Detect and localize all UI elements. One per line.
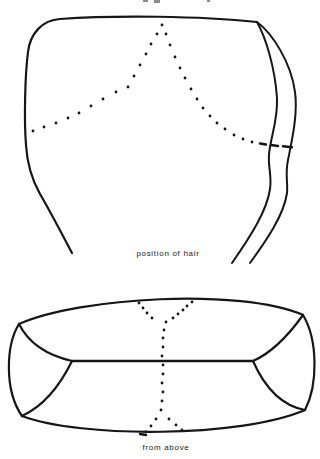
hairline-dot bbox=[145, 53, 148, 56]
hairline-dot bbox=[251, 141, 254, 144]
hairline-dot bbox=[162, 364, 165, 367]
hairline-dot bbox=[209, 115, 212, 118]
hairline-dot bbox=[161, 355, 164, 358]
hairline-dot bbox=[142, 307, 145, 310]
hairline-dot bbox=[78, 112, 81, 115]
hairline-dot bbox=[139, 64, 142, 67]
hairline-dot bbox=[182, 309, 185, 312]
hairline-dot bbox=[162, 346, 165, 349]
outline-path bbox=[232, 22, 277, 263]
hairline-dot bbox=[162, 373, 165, 376]
hairline-dot bbox=[175, 424, 178, 427]
figure-top-view bbox=[9, 299, 315, 435]
hairline-dot bbox=[133, 75, 136, 78]
hairline-dot bbox=[163, 329, 166, 332]
hairline-dot bbox=[127, 86, 130, 89]
outline-path bbox=[253, 315, 303, 361]
clipped-text-fragment bbox=[143, 0, 148, 2]
hairline-dot bbox=[161, 24, 164, 27]
outline-path bbox=[9, 324, 22, 416]
hairline-dash bbox=[260, 144, 266, 145]
hairline-dot bbox=[169, 44, 172, 47]
outline-path bbox=[22, 410, 305, 432]
hairline-dot bbox=[151, 317, 154, 320]
hairline-dot bbox=[155, 418, 158, 421]
hairline-dot bbox=[160, 409, 163, 412]
hairline-dot bbox=[186, 305, 189, 308]
clipped-text-fragment bbox=[154, 0, 160, 3]
outline-path bbox=[22, 361, 72, 416]
hairline-dot bbox=[90, 105, 93, 108]
hairline-dot bbox=[172, 317, 175, 320]
clipped-text-fragment bbox=[207, 0, 210, 2]
outline-path bbox=[250, 22, 296, 263]
page: position of hair from above bbox=[0, 0, 320, 459]
hairline-dash bbox=[283, 146, 292, 147]
hairline-dot bbox=[190, 88, 193, 91]
hairline-dot bbox=[115, 91, 118, 94]
hairline-dot bbox=[196, 98, 199, 101]
outline-path bbox=[19, 299, 303, 324]
hairline-dot bbox=[161, 382, 164, 385]
hairline-dot bbox=[102, 98, 105, 101]
hairline-dot bbox=[145, 431, 148, 434]
hairline-dot bbox=[224, 128, 227, 131]
outline-path bbox=[253, 361, 305, 410]
hairline-dot bbox=[177, 313, 180, 316]
hairline-dot bbox=[161, 400, 164, 403]
hairline-dot bbox=[168, 418, 171, 421]
hairline-dot bbox=[184, 77, 187, 80]
hairline-dot bbox=[202, 107, 205, 110]
hairline-dot bbox=[150, 43, 153, 46]
hairline-dot bbox=[191, 301, 194, 304]
hairline-dot bbox=[138, 302, 141, 305]
caption-position-of-hair: position of hair bbox=[118, 249, 218, 259]
hairline-dot bbox=[233, 134, 236, 137]
hairline-dot bbox=[181, 429, 184, 432]
hairline-dot bbox=[146, 312, 149, 315]
hairline-dot bbox=[67, 117, 70, 120]
hairline-dot bbox=[179, 67, 182, 70]
hairline-dot bbox=[174, 56, 177, 59]
hairline-dash bbox=[140, 434, 146, 435]
hairline-dash bbox=[271, 145, 278, 146]
caption-from-above: from above bbox=[126, 443, 206, 453]
diagram-svg bbox=[0, 0, 320, 459]
figure-front-view bbox=[25, 17, 296, 263]
hairline-dot bbox=[165, 33, 168, 36]
hairline-dot bbox=[32, 130, 35, 133]
hairline-dot bbox=[216, 122, 219, 125]
outline-path bbox=[303, 315, 315, 410]
hairline-dot bbox=[165, 321, 168, 324]
hairline-dot bbox=[43, 126, 46, 129]
hairline-dot bbox=[55, 122, 58, 125]
outline-path bbox=[25, 17, 257, 253]
hairline-dot bbox=[162, 391, 165, 394]
hairline-dot bbox=[162, 337, 165, 340]
hairline-dot bbox=[242, 138, 245, 141]
hairline-dot bbox=[150, 425, 153, 428]
outline-path bbox=[19, 324, 72, 361]
hairline-dot bbox=[156, 33, 159, 36]
